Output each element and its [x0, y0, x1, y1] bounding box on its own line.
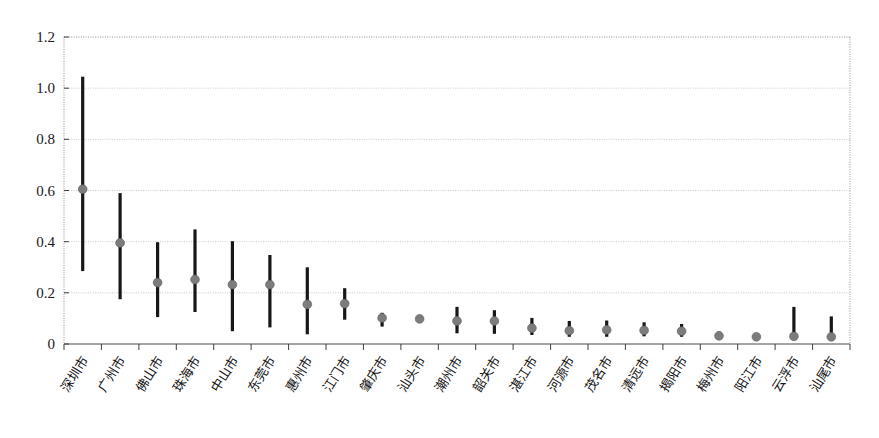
estimate-marker: [790, 332, 799, 341]
y-tick-label: 0.8: [36, 131, 55, 147]
estimate-marker: [78, 185, 87, 194]
estimate-marker: [340, 299, 349, 308]
estimate-marker: [602, 326, 611, 335]
estimate-marker: [490, 317, 499, 326]
y-tick-label: 0: [48, 336, 56, 352]
estimate-marker: [677, 327, 686, 336]
forest-plot-svg: 00.20.40.60.81.01.2 深圳市广州市佛山市珠海市中山市东莞市惠州…: [0, 0, 879, 438]
y-tick-label: 0.2: [36, 285, 55, 301]
estimate-marker: [228, 280, 237, 289]
y-tick-label: 1.0: [36, 80, 55, 96]
estimate-marker: [715, 331, 724, 340]
estimate-marker: [266, 280, 275, 289]
estimate-marker: [153, 278, 162, 287]
y-tick-label: 1.2: [36, 29, 55, 45]
estimate-marker: [191, 275, 200, 284]
estimate-marker: [415, 315, 424, 324]
estimate-marker: [528, 324, 537, 333]
estimate-marker: [565, 326, 574, 335]
estimate-marker: [752, 332, 761, 341]
chart-figure: 00.20.40.60.81.01.2 深圳市广州市佛山市珠海市中山市东莞市惠州…: [0, 0, 879, 438]
data-point-梅州市: [715, 331, 724, 340]
estimate-marker: [378, 314, 387, 323]
y-tick-label: 0.4: [36, 234, 55, 250]
estimate-marker: [116, 239, 125, 248]
data-point-汕头市: [415, 315, 424, 324]
estimate-marker: [640, 326, 649, 335]
estimate-marker: [827, 332, 836, 341]
estimate-marker: [453, 317, 462, 326]
y-tick-label: 0.6: [36, 183, 55, 199]
data-point-阳江市: [752, 332, 761, 341]
estimate-marker: [303, 300, 312, 309]
